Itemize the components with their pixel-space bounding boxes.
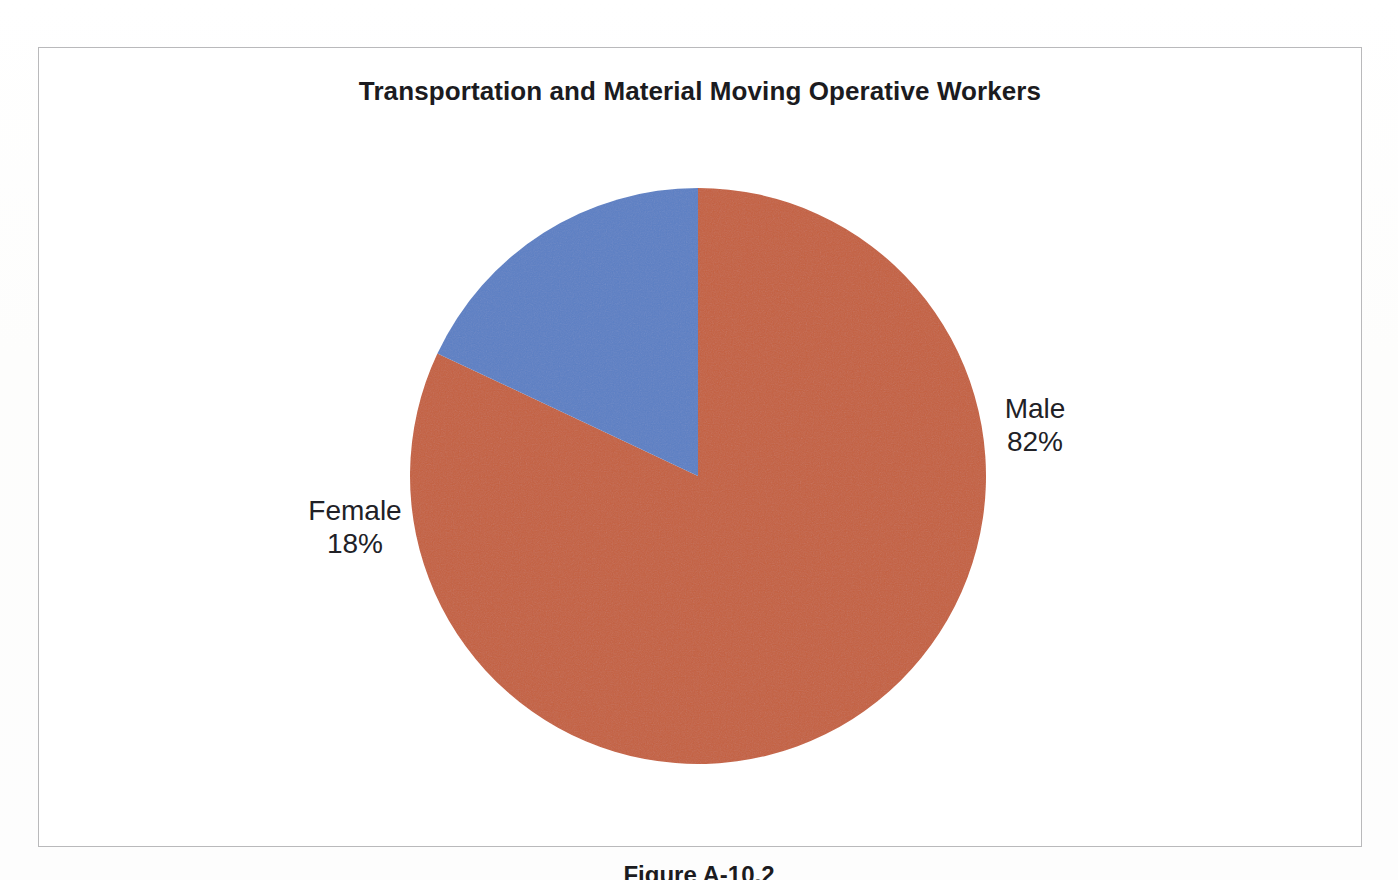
pie-chart [410,188,986,764]
pie-label-female: Female 18% [280,494,430,560]
pie-label-female-name: Female [280,494,430,527]
pie-label-male-value: 82% [960,425,1110,458]
figure-caption: Figure A-10.2 [0,861,1398,880]
pie-chart-svg [410,188,986,764]
pie-label-female-value: 18% [280,527,430,560]
pie-label-male-name: Male [960,392,1110,425]
pie-label-male: Male 82% [960,392,1110,458]
chart-title: Transportation and Material Moving Opera… [38,76,1362,107]
